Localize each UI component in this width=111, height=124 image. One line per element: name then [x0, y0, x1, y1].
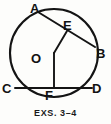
- figure-caption: EXS. 3–4: [0, 108, 111, 118]
- geometry-figure: A E B O C F D EXS. 3–4: [0, 0, 111, 124]
- figure-drawing: [0, 0, 111, 124]
- point-label-f: F: [45, 89, 53, 102]
- radius-oe-line: [54, 31, 67, 53]
- point-label-e: E: [63, 19, 72, 32]
- point-label-a: A: [30, 2, 39, 15]
- point-label-o: O: [31, 52, 41, 65]
- point-label-d: D: [92, 82, 101, 95]
- point-label-b: B: [96, 47, 105, 60]
- point-label-c: C: [2, 82, 11, 95]
